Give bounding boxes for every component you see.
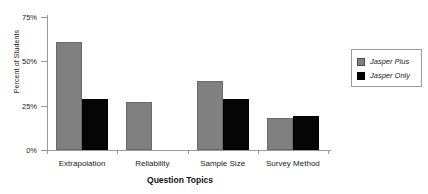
y-axis-tick-labels: 0%25%50%75%: [0, 0, 45, 194]
y-tick-label: 25%: [22, 101, 37, 110]
x-axis-line: [41, 150, 331, 151]
y-tick-mark: [41, 106, 47, 107]
y-tick-label: 0%: [26, 146, 37, 155]
x-category-label: Survey Method: [266, 159, 320, 168]
bar-jasper-plus-reliability: [126, 102, 152, 150]
x-tick-mark: [188, 150, 189, 154]
bar-jasper-plus-extrapolation: [56, 42, 82, 150]
x-tick-mark: [258, 150, 259, 154]
bar-jasper-plus-survey-method: [267, 118, 293, 150]
bar-jasper-plus-sample-size: [197, 81, 223, 150]
legend-label: Jasper Only: [370, 71, 410, 80]
legend-item-jasper-plus: Jasper Plus: [357, 57, 416, 66]
y-tick-mark: [41, 17, 47, 18]
y-tick-mark: [41, 61, 47, 62]
legend: Jasper Plus Jasper Only: [351, 49, 422, 87]
x-tick-mark: [117, 150, 118, 154]
plot-area: [47, 17, 328, 150]
bar-jasper-only-sample-size: [223, 99, 249, 150]
legend-item-jasper-only: Jasper Only: [357, 71, 416, 80]
y-tick-label: 50%: [22, 57, 37, 66]
bar-jasper-only-survey-method: [293, 116, 319, 150]
x-tick-mark: [47, 150, 48, 154]
x-category-label: Extrapolation: [59, 159, 106, 168]
x-category-label: Sample Size: [200, 159, 245, 168]
black-swatch-icon: [357, 72, 365, 80]
x-category-label: Reliability: [135, 159, 169, 168]
bar-chart: Percent of Students 0%25%50%75% Extrapol…: [0, 0, 428, 194]
y-tick-label: 75%: [22, 13, 37, 22]
legend-label: Jasper Plus: [370, 57, 409, 66]
x-tick-mark: [328, 150, 329, 154]
x-axis-title: Question Topics: [0, 175, 360, 185]
gray-swatch-icon: [357, 58, 365, 66]
bar-jasper-only-extrapolation: [82, 99, 108, 150]
